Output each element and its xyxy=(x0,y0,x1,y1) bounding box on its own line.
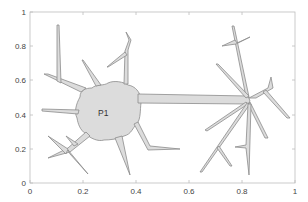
dendrite xyxy=(57,25,61,83)
dendrite xyxy=(124,32,131,84)
x-tick-labels: 0 0.2 0.4 0.6 0.8 1 xyxy=(28,187,298,196)
dendrite xyxy=(134,122,180,150)
x-tick-label: 0.6 xyxy=(183,187,195,196)
neuron-polygon xyxy=(42,25,290,175)
y-tick-labels: 0 0.2 0.4 0.6 0.8 1 xyxy=(15,8,27,188)
y-tick-label: 0.6 xyxy=(15,76,27,85)
neuron-shape-plot: 0 0.2 0.4 0.6 0.8 1 0 0.2 0.4 0.6 0.8 1 xyxy=(0,0,308,202)
axon-terminal-branch xyxy=(200,103,250,172)
x-tick-label: 0 xyxy=(28,187,33,196)
dendrite xyxy=(42,109,79,114)
axon xyxy=(138,94,250,104)
y-tick-label: 0.8 xyxy=(15,42,27,51)
axon-terminal-branch xyxy=(263,90,290,118)
x-tick-label: 0.4 xyxy=(130,187,142,196)
dendrite xyxy=(115,136,130,175)
dendrite xyxy=(44,74,86,92)
annotation-label: P1 xyxy=(98,108,109,118)
x-tick-label: 0.2 xyxy=(77,187,89,196)
dendrite xyxy=(68,150,88,174)
x-tick-label: 0.8 xyxy=(236,187,248,196)
dendrite xyxy=(107,52,127,67)
y-tick-label: 0.2 xyxy=(15,145,27,154)
x-tick-label: 1 xyxy=(293,187,298,196)
y-tick-label: 1 xyxy=(22,8,27,17)
axon-terminal-branch xyxy=(235,104,251,175)
dendrite xyxy=(82,60,101,86)
dendrite xyxy=(48,132,90,158)
y-tick-label: 0 xyxy=(22,179,27,188)
y-tick-label: 0.4 xyxy=(15,111,27,120)
axon-terminal-branch xyxy=(232,26,249,97)
axon-terminal-branch xyxy=(217,146,232,166)
dendrite xyxy=(48,136,68,154)
